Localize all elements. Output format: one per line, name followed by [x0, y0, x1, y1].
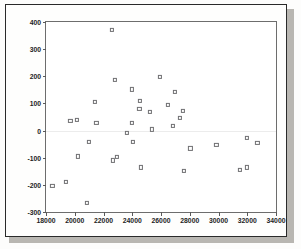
x-axis-tick [46, 212, 47, 216]
x-axis-tick [276, 212, 277, 216]
figure-root: Unstandardized Residual -300-200-1000100… [0, 0, 301, 249]
data-point [170, 124, 174, 128]
data-point [115, 155, 119, 159]
data-point [157, 75, 161, 79]
scatter-plot-area: -300-200-1000100200300400180002000022000… [45, 21, 277, 213]
x-axis-tick-label: 20000 [65, 217, 84, 224]
data-point [138, 99, 142, 103]
data-point [50, 184, 54, 188]
zero-reference-line [46, 131, 276, 132]
data-point [94, 121, 98, 125]
y-axis-tick-label: 400 [30, 19, 41, 26]
x-axis-tick-label: 32000 [238, 217, 257, 224]
data-point [166, 103, 170, 107]
x-axis-tick-label: 26000 [152, 217, 171, 224]
data-point [178, 116, 182, 120]
data-point [238, 168, 242, 172]
data-point [110, 28, 114, 32]
y-axis-tick [43, 185, 47, 186]
data-point [214, 143, 218, 147]
x-axis-tick-label: 30000 [209, 217, 228, 224]
data-point [181, 109, 185, 113]
data-point [93, 100, 97, 104]
data-point [87, 140, 91, 144]
data-point [129, 121, 133, 125]
data-point [68, 119, 72, 123]
data-point [150, 127, 154, 131]
data-point [113, 78, 117, 82]
x-axis-tick [190, 212, 191, 216]
x-axis-tick-label: 22000 [94, 217, 113, 224]
data-point [124, 131, 128, 135]
y-axis-tick [43, 76, 47, 77]
x-axis-tick-label: 18000 [37, 217, 56, 224]
y-axis-tick-label: -300 [27, 209, 41, 216]
x-axis-tick [132, 212, 133, 216]
data-point [148, 110, 152, 114]
x-axis-tick [104, 212, 105, 216]
data-point [75, 118, 79, 122]
data-point [182, 169, 186, 173]
x-axis-tick-label: 28000 [180, 217, 199, 224]
data-point [188, 146, 192, 150]
y-axis-tick-label: 200 [30, 73, 41, 80]
x-axis-tick-label: 34000 [267, 217, 286, 224]
y-axis-tick-label: -200 [27, 181, 41, 188]
x-axis-tick [247, 212, 248, 216]
data-point [139, 165, 143, 169]
x-axis-tick-label: 24000 [123, 217, 142, 224]
x-axis-tick [219, 212, 220, 216]
data-point [255, 141, 259, 145]
y-axis-tick [43, 22, 47, 23]
y-axis-tick [43, 131, 47, 132]
y-axis-tick-label: 300 [30, 46, 41, 53]
x-axis-tick [161, 212, 162, 216]
data-point [130, 87, 134, 91]
data-point [76, 154, 80, 158]
y-axis-tick-label: -100 [27, 154, 41, 161]
data-point [111, 158, 115, 162]
y-axis-tick [43, 49, 47, 50]
y-axis-tick [43, 158, 47, 159]
y-axis-tick-label: 100 [30, 100, 41, 107]
data-point [173, 90, 177, 94]
data-point [131, 140, 135, 144]
data-point [245, 136, 249, 140]
data-point [244, 165, 248, 169]
x-axis-tick [75, 212, 76, 216]
y-axis-tick-label: 0 [37, 127, 41, 134]
data-point [85, 200, 89, 204]
data-point [64, 180, 68, 184]
y-axis-tick [43, 103, 47, 104]
data-point [137, 107, 141, 111]
